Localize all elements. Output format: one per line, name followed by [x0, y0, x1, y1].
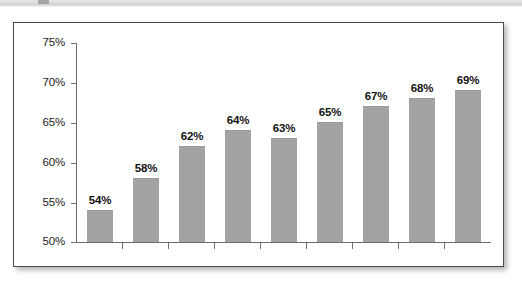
bar-label-4: 64%	[218, 115, 258, 127]
x-axis-tick	[306, 243, 307, 249]
bar-label-1: 54%	[80, 195, 120, 207]
bar-3[interactable]	[179, 146, 205, 242]
y-axis-label-60: 60%	[21, 157, 65, 169]
bar-label-6: 65%	[310, 107, 350, 119]
x-axis-tick	[398, 243, 399, 249]
y-axis-label-50: 50%	[21, 236, 65, 248]
header-band-smudge	[38, 0, 49, 4]
x-axis-tick	[122, 243, 123, 249]
y-axis-tick	[71, 83, 77, 84]
y-axis-tick	[71, 242, 77, 243]
y-axis-tick	[71, 203, 77, 204]
y-axis-line	[76, 43, 77, 243]
chart-figure-frame: 75% 70% 65% 60% 55% 50% 54% 58% 62% 64% …	[13, 22, 504, 267]
x-axis-tick	[214, 243, 215, 249]
y-axis-label-75: 75%	[21, 37, 65, 49]
bar-9[interactable]	[455, 90, 481, 242]
page-header-band	[0, 0, 522, 7]
x-axis-tick	[444, 243, 445, 249]
bar-label-8: 68%	[402, 83, 442, 95]
bar-5[interactable]	[271, 138, 297, 242]
bar-7[interactable]	[363, 106, 389, 242]
bar-chart-plot-area: 75% 70% 65% 60% 55% 50% 54% 58% 62% 64% …	[14, 23, 505, 268]
y-axis-tick	[71, 163, 77, 164]
bar-label-3: 62%	[172, 131, 212, 143]
bar-4[interactable]	[225, 130, 251, 242]
bar-1[interactable]	[87, 210, 113, 242]
y-axis-label-55: 55%	[21, 197, 65, 209]
bar-label-7: 67%	[356, 91, 396, 103]
bar-label-9: 69%	[448, 75, 488, 87]
x-axis-tick	[260, 243, 261, 249]
bar-2[interactable]	[133, 178, 159, 242]
y-axis-label-65: 65%	[21, 117, 65, 129]
bar-label-5: 63%	[264, 123, 304, 135]
y-axis-tick	[71, 43, 77, 44]
bar-8[interactable]	[409, 98, 435, 242]
y-axis-tick	[71, 123, 77, 124]
x-axis-tick	[168, 243, 169, 249]
x-axis-tick	[352, 243, 353, 249]
y-axis-label-70: 70%	[21, 77, 65, 89]
bar-6[interactable]	[317, 122, 343, 242]
x-axis-line	[76, 242, 491, 243]
bar-label-2: 58%	[126, 163, 166, 175]
